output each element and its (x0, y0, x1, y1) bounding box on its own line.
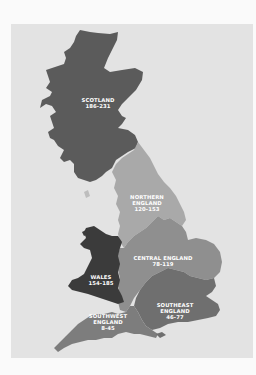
region-range: 46-77 (157, 314, 194, 320)
uk-regions-map (0, 0, 256, 375)
region-wales[interactable] (68, 226, 124, 304)
region-range: 8-45 (89, 325, 127, 331)
isle-of-wight (156, 332, 166, 338)
region-range: 154-185 (88, 280, 113, 286)
label-wales: WALES 154-185 (88, 274, 113, 286)
region-range: 78-119 (133, 261, 192, 267)
region-range: 186-231 (82, 103, 115, 109)
label-scotland: SCOTLAND 186-231 (82, 97, 115, 109)
isle-of-man (84, 190, 90, 198)
label-southeast-england: SOUTHEAST ENGLAND 46-77 (157, 302, 194, 320)
region-range: 120-153 (130, 206, 164, 212)
label-northern-england: NORTHERN ENGLAND 120-153 (130, 194, 164, 212)
label-central-england: CENTRAL ENGLAND 78-119 (133, 255, 192, 267)
label-southwest-england: SOUTHWEST ENGLAND 8-45 (89, 313, 127, 331)
